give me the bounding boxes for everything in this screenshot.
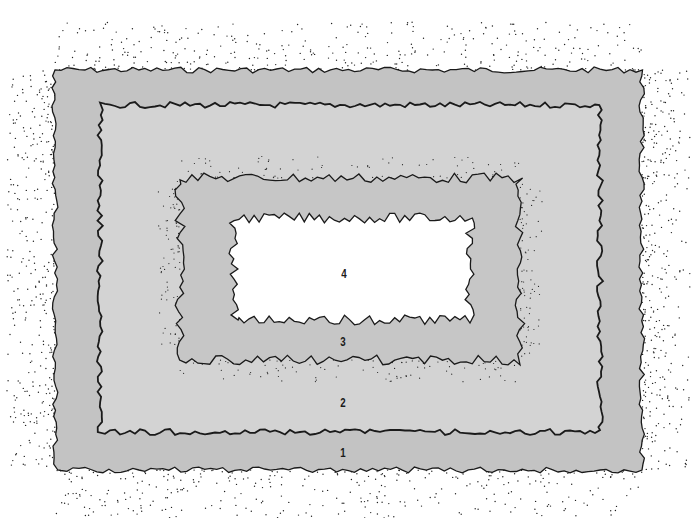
zone-diagram: 1 2 3 4 xyxy=(0,0,695,518)
zone-rings-graphic xyxy=(0,0,695,518)
zone-4-label: 4 xyxy=(340,266,347,281)
zone-4-area xyxy=(229,213,475,325)
zone-3-label: 3 xyxy=(339,334,346,349)
zone-1-label: 1 xyxy=(339,445,346,460)
zone-2-label: 2 xyxy=(339,395,346,410)
